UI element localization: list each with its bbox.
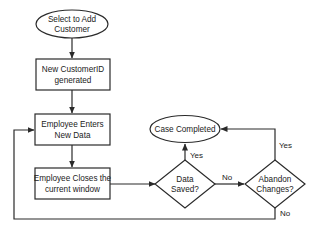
close-window-line2: current window bbox=[45, 185, 100, 194]
abandon-yes-label: Yes bbox=[279, 141, 292, 150]
new-id-line2: generated bbox=[55, 76, 92, 85]
flowchart-canvas: Select to Add Customer New CustomerID ge… bbox=[0, 0, 318, 233]
data-saved-decision: Data Saved? bbox=[155, 160, 215, 208]
case-completed-node: Case Completed bbox=[150, 116, 220, 143]
start-node: Select to Add Customer bbox=[36, 10, 108, 38]
saved-yes-label: Yes bbox=[190, 151, 203, 160]
enter-data-line2: New Data bbox=[55, 131, 91, 140]
enter-data-line1: Employee Enters bbox=[41, 120, 103, 129]
enter-data-node: Employee Enters New Data bbox=[35, 114, 110, 145]
saved-no-label: No bbox=[222, 173, 233, 182]
data-saved-line2: Saved? bbox=[171, 185, 199, 194]
case-completed-label: Case Completed bbox=[155, 125, 216, 134]
start-node-line1: Select to Add bbox=[48, 15, 97, 24]
new-customer-id-node: New CustomerID generated bbox=[36, 59, 110, 90]
abandon-no-label: No bbox=[280, 209, 291, 218]
abandon-line2: Changes? bbox=[256, 185, 294, 194]
abandon-changes-decision: Abandon Changes? bbox=[245, 160, 305, 208]
close-window-line1: Employee Closes the bbox=[34, 174, 112, 183]
abandon-line1: Abandon bbox=[259, 175, 292, 184]
data-saved-line1: Data bbox=[176, 175, 194, 184]
start-node-line2: Customer bbox=[54, 25, 90, 34]
flowchart-svg: Select to Add Customer New CustomerID ge… bbox=[0, 0, 318, 233]
new-id-line1: New CustomerID bbox=[42, 65, 104, 74]
edge-abandon-yes bbox=[221, 129, 275, 160]
close-window-node: Employee Closes the current window bbox=[34, 168, 112, 199]
